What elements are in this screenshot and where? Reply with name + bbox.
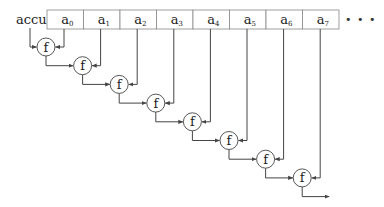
accumulator-edge: [30, 28, 37, 47]
array-cell: a5: [230, 10, 267, 29]
function-node: f: [293, 169, 311, 187]
result-edge: [266, 168, 293, 178]
final-output-edge: [302, 187, 329, 197]
function-node: f: [183, 113, 201, 131]
function-node: f: [110, 75, 128, 93]
result-edge: [229, 150, 256, 160]
array-cell: a1: [84, 10, 121, 29]
element-edge: [202, 29, 211, 122]
element-edge: [129, 29, 138, 84]
result-edge: [83, 75, 110, 85]
element-edge: [165, 29, 174, 103]
element-edge: [312, 29, 321, 178]
function-node: f: [37, 38, 55, 56]
fold-diagram: a0a1a2a3a4a5a6a7 ffffffff accu • • •: [0, 0, 384, 207]
element-edge: [239, 29, 248, 141]
array-cell: a2: [120, 10, 157, 29]
result-edge: [192, 131, 219, 141]
element-edge: [275, 29, 284, 159]
function-node: f: [147, 94, 165, 112]
array: a0a1a2a3a4a5a6a7: [47, 10, 339, 29]
function-node: f: [257, 150, 275, 168]
array-cell: a7: [303, 10, 340, 29]
element-edge: [56, 29, 65, 47]
result-edge: [156, 112, 183, 122]
array-cell: a4: [193, 10, 230, 29]
array-cell: a6: [266, 10, 303, 29]
result-edge: [119, 93, 146, 103]
edges: [30, 28, 329, 197]
function-node: f: [74, 57, 92, 75]
array-cell: a3: [157, 10, 194, 29]
result-edge: [46, 56, 73, 66]
accumulator-label: accu: [16, 12, 47, 27]
element-edge: [92, 29, 101, 66]
function-node: f: [220, 132, 238, 150]
array-cell: a0: [47, 10, 84, 29]
continuation-dots: • • •: [345, 13, 376, 26]
